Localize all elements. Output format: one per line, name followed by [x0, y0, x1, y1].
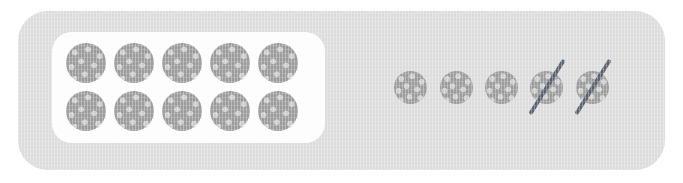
- scene-canvas: [0, 0, 683, 183]
- background-panel: [18, 11, 665, 170]
- loose-counter-group: [18, 11, 665, 170]
- counter-disc[interactable]: [394, 71, 427, 104]
- counter-disc[interactable]: [485, 71, 518, 104]
- counter-disc[interactable]: [440, 71, 473, 104]
